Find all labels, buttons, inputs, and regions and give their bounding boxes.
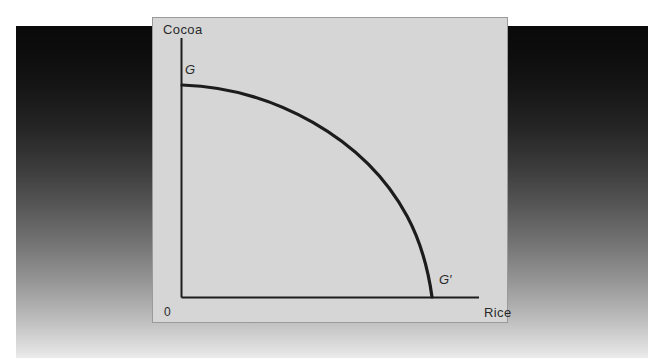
figure-root: Cocoa Rice G G′ 0 xyxy=(0,0,661,358)
origin-label: 0 xyxy=(164,306,171,318)
ppf-chart-svg xyxy=(153,18,507,322)
point-label-g-prime: G′ xyxy=(439,273,452,286)
x-axis-label-rice: Rice xyxy=(484,306,512,319)
chart-panel: Cocoa Rice G G′ 0 xyxy=(152,17,508,323)
point-label-g: G xyxy=(185,63,195,76)
ppf-curve xyxy=(182,85,432,297)
y-axis-label-cocoa: Cocoa xyxy=(163,23,203,36)
